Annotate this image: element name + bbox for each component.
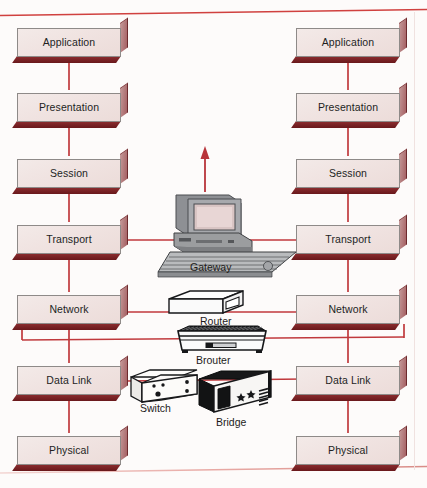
box-side-face <box>399 17 407 53</box>
left-layer-physical[interactable]: Physical <box>17 436 121 465</box>
right-layer-session[interactable]: Session <box>296 159 400 188</box>
router-box-icon <box>169 291 243 313</box>
box-side-face <box>399 214 407 250</box>
box-bottom-face <box>12 253 121 260</box>
layer-label: Data Link <box>46 375 91 386</box>
box-bottom-face <box>12 56 121 63</box>
box-front-face: Session <box>296 159 400 188</box>
switch-box-icon <box>131 370 197 402</box>
box-front-face: Network <box>17 295 121 324</box>
left-layer-data-link[interactable]: Data Link <box>17 366 121 395</box>
box-front-face: Presentation <box>296 93 400 122</box>
device-label-gateway: Gateway <box>190 262 231 273</box>
layer-label: Network <box>328 304 367 315</box>
right-layer-presentation[interactable]: Presentation <box>296 93 400 122</box>
left-layer-application[interactable]: Application <box>17 28 121 57</box>
box-bottom-face <box>12 121 121 128</box>
layer-label: Application <box>43 37 95 48</box>
layer-label: Session <box>329 168 367 179</box>
box-side-face <box>399 425 407 461</box>
box-front-face: Transport <box>296 225 400 254</box>
box-front-face: Network <box>296 295 400 324</box>
gateway-arrow-head <box>201 146 210 159</box>
layer-label: Physical <box>49 445 89 456</box>
box-bottom-face <box>12 187 121 194</box>
box-side-face <box>399 148 407 184</box>
box-side-face <box>120 148 128 184</box>
box-side-face <box>399 284 407 320</box>
box-bottom-face <box>291 121 400 128</box>
box-side-face <box>120 82 128 118</box>
layer-label: Session <box>50 168 88 179</box>
box-front-face: Physical <box>296 436 400 465</box>
box-bottom-face <box>291 187 400 194</box>
box-bottom-face <box>291 323 400 330</box>
layer-label: Transport <box>325 234 370 245</box>
left-layer-transport[interactable]: Transport <box>17 225 121 254</box>
layer-label: Physical <box>328 445 368 456</box>
right-layer-data-link[interactable]: Data Link <box>296 366 400 395</box>
right-layer-physical[interactable]: Physical <box>296 436 400 465</box>
device-label-router: Router <box>200 316 232 327</box>
box-bottom-face <box>12 464 121 471</box>
box-front-face: Data Link <box>296 366 400 395</box>
box-side-face <box>120 284 128 320</box>
box-front-face: Transport <box>17 225 121 254</box>
layer-label: Application <box>322 37 374 48</box>
box-side-face <box>120 214 128 250</box>
layer-label: Data Link <box>325 375 370 386</box>
box-side-face <box>120 425 128 461</box>
layer-label: Network <box>49 304 88 315</box>
left-layer-session[interactable]: Session <box>17 159 121 188</box>
layer-label: Presentation <box>39 102 99 113</box>
layer-label: Transport <box>46 234 91 245</box>
right-layer-network[interactable]: Network <box>296 295 400 324</box>
box-side-face <box>120 355 128 391</box>
box-bottom-face <box>291 253 400 260</box>
brouter-chassis-icon <box>178 326 266 353</box>
right-layer-transport[interactable]: Transport <box>296 225 400 254</box>
right-layer-application[interactable]: Application <box>296 28 400 57</box>
osi-device-diagram: Application Presentation Session Transpo… <box>0 0 427 488</box>
box-front-face: Application <box>17 28 121 57</box>
device-label-switch: Switch <box>140 403 171 414</box>
bridge-chassis-icon <box>199 371 271 412</box>
box-bottom-face <box>291 464 400 471</box>
box-side-face <box>399 355 407 391</box>
box-side-face <box>120 17 128 53</box>
box-side-face <box>399 82 407 118</box>
device-label-brouter: Brouter <box>196 355 230 366</box>
left-layer-presentation[interactable]: Presentation <box>17 93 121 122</box>
box-bottom-face <box>291 56 400 63</box>
box-front-face: Session <box>17 159 121 188</box>
box-bottom-face <box>12 394 121 401</box>
device-label-bridge: Bridge <box>216 417 246 428</box>
box-front-face: Application <box>296 28 400 57</box>
page-rule-top <box>0 10 427 16</box>
box-front-face: Physical <box>17 436 121 465</box>
left-layer-network[interactable]: Network <box>17 295 121 324</box>
box-bottom-face <box>291 394 400 401</box>
box-bottom-face <box>12 323 121 330</box>
box-front-face: Data Link <box>17 366 121 395</box>
box-front-face: Presentation <box>17 93 121 122</box>
layer-label: Presentation <box>318 102 378 113</box>
